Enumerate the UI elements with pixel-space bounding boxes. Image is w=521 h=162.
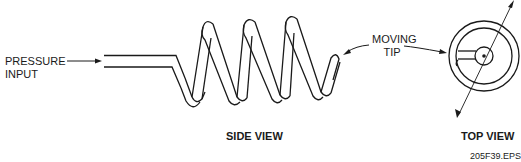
arrowhead-right: [439, 49, 447, 54]
side-view-caption: SIDE VIEW: [226, 130, 283, 143]
pressure-input-arrow: [67, 59, 102, 64]
moving-tip-label-line2: TIP: [372, 46, 412, 59]
helical-coil: [181, 17, 340, 107]
figure-id: 205F39.EPS: [470, 150, 521, 162]
pressure-input-tube: [104, 56, 185, 89]
pressure-input-label-line2: INPUT: [5, 68, 38, 81]
pivot-dot: [482, 54, 486, 58]
pressure-input-label-line1: PRESSURE: [5, 55, 66, 68]
top-view-caption: TOP VIEW: [461, 130, 514, 143]
moving-tip-label-line1: MOVING: [372, 33, 412, 46]
